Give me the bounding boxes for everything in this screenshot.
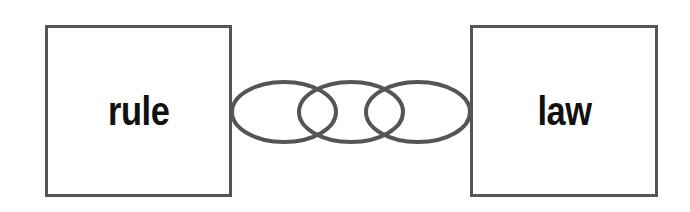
node-box-law[interactable]: law xyxy=(470,25,658,197)
chain-ellipse-3 xyxy=(366,82,470,142)
chain-ellipse-2 xyxy=(299,82,403,142)
diagram-canvas: rule law xyxy=(0,0,690,212)
node-label-rule: rule xyxy=(108,91,169,131)
node-box-rule[interactable]: rule xyxy=(45,25,232,197)
chain-ellipse-1 xyxy=(232,82,336,142)
node-label-law: law xyxy=(537,91,591,131)
interlocking-ellipses-group xyxy=(232,82,470,142)
